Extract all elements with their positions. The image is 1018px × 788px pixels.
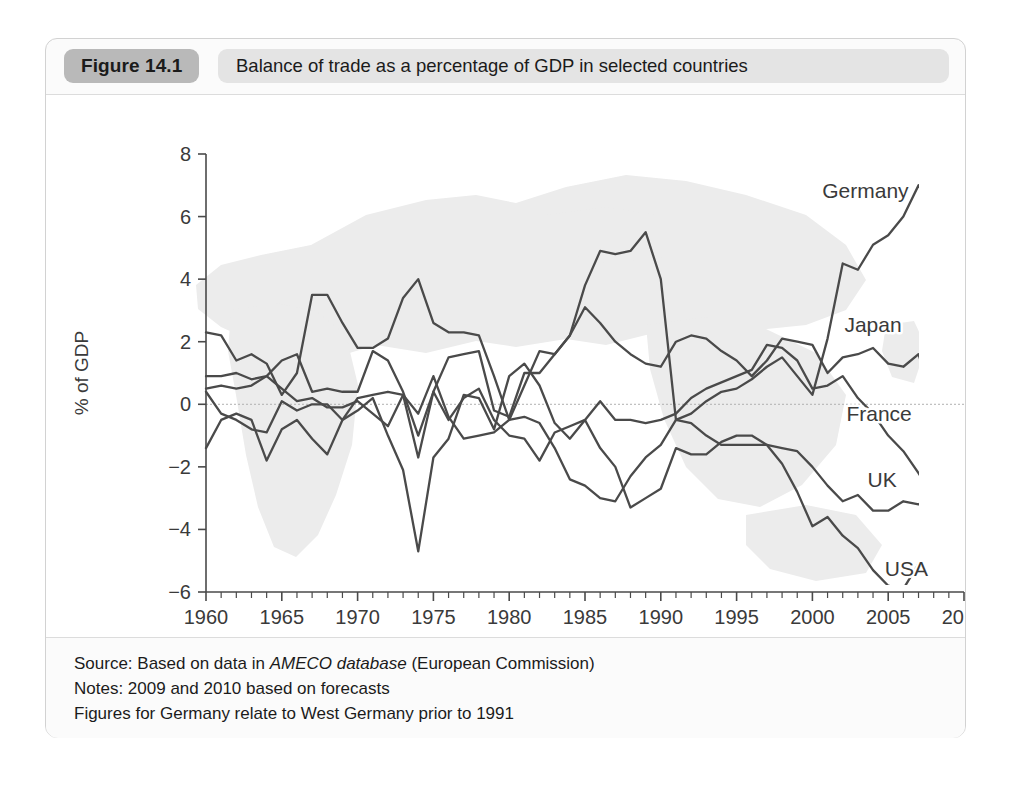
forecast-note: Notes: 2009 and 2010 based on forecasts (74, 676, 965, 701)
x-tick-label: 1960 (184, 606, 229, 628)
series-label-uk: UK (868, 468, 897, 491)
figure-header: Figure 14.1 Balance of trade as a percen… (46, 39, 965, 95)
x-axis-ticks: 1960196519701975198019851990199520002005… (184, 592, 965, 628)
x-tick-label: 1965 (260, 606, 305, 628)
y-tick-label: −2 (168, 456, 191, 478)
series-label-japan: Japan (844, 313, 901, 336)
y-tick-label: 2 (180, 331, 191, 353)
y-tick-label: 6 (180, 206, 191, 228)
figure-number-badge: Figure 14.1 (64, 49, 199, 83)
x-tick-label: 1985 (563, 606, 608, 628)
y-tick-label: 0 (180, 393, 191, 415)
series-label-france: France (846, 402, 911, 425)
x-tick-label: 1975 (411, 606, 456, 628)
source-note-suffix: (European Commission) (407, 654, 595, 673)
x-tick-label: 1990 (639, 606, 684, 628)
y-tick-label: 4 (180, 268, 191, 290)
source-note-database: AMECO database (270, 654, 407, 673)
series-label-usa: USA (885, 557, 928, 580)
x-tick-label: 1980 (487, 606, 532, 628)
x-tick-label: 1970 (335, 606, 380, 628)
y-tick-label: 8 (180, 143, 191, 165)
x-tick-label: 2010 (942, 606, 965, 628)
x-tick-label: 1995 (714, 606, 759, 628)
series-label-germany: Germany (822, 179, 909, 202)
y-tick-label: −6 (168, 581, 191, 603)
balance-of-trade-line-chart: −6−4−202468 1960196519701975198019851990… (46, 95, 965, 637)
y-axis-ticks: −6−4−202468 (168, 143, 206, 603)
germany-note: Figures for Germany relate to West Germa… (74, 701, 965, 726)
y-tick-label: −4 (168, 518, 191, 540)
figure-notes: Source: Based on data in AMECO database … (46, 637, 965, 738)
x-tick-label: 2005 (866, 606, 911, 628)
x-tick-label: 2000 (790, 606, 835, 628)
source-note-prefix: Source: Based on data in (74, 654, 270, 673)
figure-title: Balance of trade as a percentage of GDP … (218, 49, 949, 83)
y-axis-title: % of GDP (71, 331, 92, 415)
chart-plot-area: −6−4−202468 1960196519701975198019851990… (46, 95, 965, 637)
figure-card: Figure 14.1 Balance of trade as a percen… (45, 38, 966, 738)
source-note: Source: Based on data in AMECO database … (74, 651, 965, 676)
